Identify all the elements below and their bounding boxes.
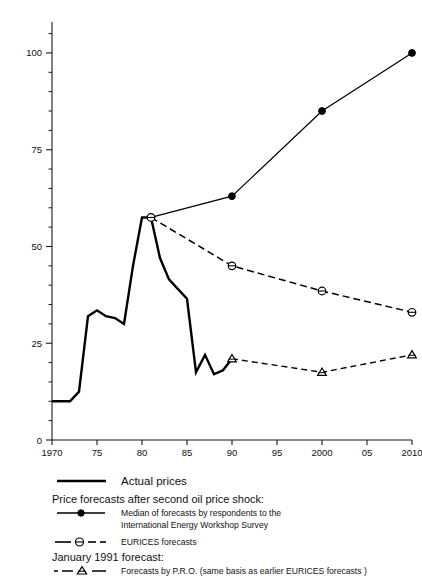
x-tick-label: 95 bbox=[272, 447, 283, 458]
y-tick-label: 0 bbox=[37, 435, 42, 446]
chart-figure: 0255075100 197075808590952000052010 Actu… bbox=[0, 0, 422, 584]
series-eurices bbox=[151, 217, 412, 312]
legend-header-january: January 1991 forecast: bbox=[52, 551, 164, 563]
legend-label-pro: Forecasts by P.R.O. (same basis as earli… bbox=[121, 566, 367, 576]
x-tick-label: 1970 bbox=[41, 447, 62, 458]
legend-swatch-iew bbox=[57, 510, 105, 516]
y-tick-label: 50 bbox=[31, 241, 42, 252]
x-tick-label: 05 bbox=[362, 447, 373, 458]
data-point-marker bbox=[319, 108, 326, 115]
data-point-marker bbox=[229, 193, 236, 200]
x-tick-label: 75 bbox=[92, 447, 103, 458]
y-tick-label: 75 bbox=[31, 144, 42, 155]
series-iew-median bbox=[151, 53, 412, 217]
y-axis-ticks: 0255075100 bbox=[26, 34, 52, 446]
legend-header-forecast: Price forecasts after second oil price s… bbox=[52, 493, 264, 505]
legend-label-actual: Actual prices bbox=[121, 475, 187, 487]
legend-swatch-eurices bbox=[55, 538, 106, 546]
x-tick-label: 85 bbox=[182, 447, 193, 458]
data-series-layer bbox=[52, 50, 416, 402]
chart-svg: 0255075100 197075808590952000052010 Actu… bbox=[0, 0, 422, 584]
legend-label-eurices: EURICES forecasts bbox=[121, 537, 196, 547]
data-point-marker bbox=[409, 50, 416, 57]
y-tick-label: 25 bbox=[31, 338, 42, 349]
y-tick-label: 100 bbox=[26, 47, 42, 58]
data-point-marker bbox=[228, 355, 237, 362]
axes bbox=[52, 22, 412, 440]
legend-label-iew-line1: Median of forecasts by respondents to th… bbox=[121, 508, 281, 518]
x-tick-label: 80 bbox=[137, 447, 148, 458]
x-tick-label: 2010 bbox=[401, 447, 422, 458]
legend: Actual prices Price forecasts after seco… bbox=[52, 475, 367, 576]
x-axis-ticks: 197075808590952000052010 bbox=[41, 440, 422, 458]
series-actual-prices bbox=[52, 217, 232, 401]
x-tick-label: 90 bbox=[227, 447, 238, 458]
x-tick-label: 2000 bbox=[311, 447, 332, 458]
data-point-marker bbox=[408, 351, 417, 358]
legend-label-iew-line2: International Energy Workshop Survey bbox=[121, 520, 269, 530]
legend-swatch-pro bbox=[54, 567, 106, 574]
